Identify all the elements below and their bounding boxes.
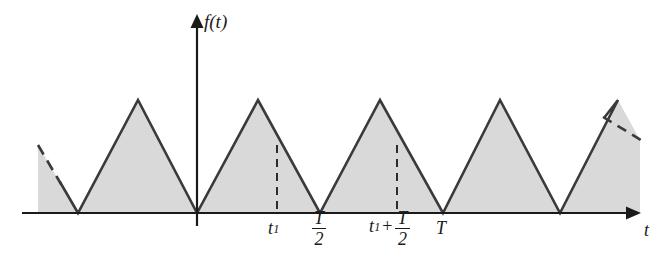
fraction-t-over-2-second: T 2 xyxy=(395,209,409,248)
tick-label-period-t: T xyxy=(436,219,446,237)
x-axis-label: t xyxy=(644,221,649,239)
tick-label-t1-subscript: 1 xyxy=(273,223,279,235)
y-axis-group xyxy=(191,14,204,226)
fraction-numerator: T xyxy=(312,209,326,228)
tick-label-t1-base: t xyxy=(268,219,273,237)
plus-operator: + xyxy=(380,217,394,235)
fraction-t-over-2: T 2 xyxy=(312,209,326,248)
y-axis-label: f(t) xyxy=(204,12,227,31)
tick-label-t1: t1 xyxy=(268,219,279,237)
tick-label-t1-plus-t-over-2: t1 + T 2 xyxy=(369,217,410,256)
tick-label-t-over-2: T 2 xyxy=(311,217,327,256)
y-axis-arrowhead xyxy=(191,14,204,28)
tick-label-t1-plus-base: t xyxy=(369,217,374,235)
tick-label-t1-plus-subscript: 1 xyxy=(374,221,380,233)
waveform-figure: f(t) t t1 T 2 t1 + T 2 T xyxy=(0,0,664,278)
tick-label-period-t-text: T xyxy=(436,219,446,237)
waveform-plot xyxy=(0,0,664,278)
fraction-denominator: 2 xyxy=(396,229,409,248)
fraction-numerator: T xyxy=(395,209,409,228)
fraction-denominator: 2 xyxy=(312,229,325,248)
